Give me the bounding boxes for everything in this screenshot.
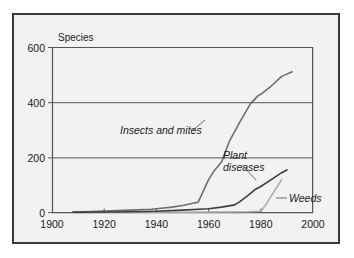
x-tick-label-1980: 1980 — [249, 218, 273, 230]
y-tick-label-200: 200 — [27, 152, 45, 164]
x-tick-label-2000: 2000 — [301, 218, 325, 230]
series-label-plant-diseases-line1: Plant — [223, 149, 248, 161]
series-label-weeds: Weeds — [289, 192, 322, 204]
series-label-insects-and-mites: Insects and mites — [120, 124, 202, 136]
species-line-chart: Species 600 400 200 0 1900 1920 1940 196… — [0, 0, 354, 258]
y-tick-label-600: 600 — [27, 42, 45, 54]
series-label-plant-diseases-line2: diseases — [223, 161, 265, 173]
x-tick-label-1920: 1920 — [93, 218, 117, 230]
y-axis-label: Species — [58, 32, 94, 43]
x-tick-label-1900: 1900 — [40, 218, 64, 230]
x-tick-label-1940: 1940 — [145, 218, 169, 230]
y-tick-label-0: 0 — [39, 207, 45, 219]
figure-container: Species 600 400 200 0 1900 1920 1940 196… — [0, 0, 354, 258]
y-tick-label-400: 400 — [27, 97, 45, 109]
x-tick-label-1960: 1960 — [197, 218, 221, 230]
